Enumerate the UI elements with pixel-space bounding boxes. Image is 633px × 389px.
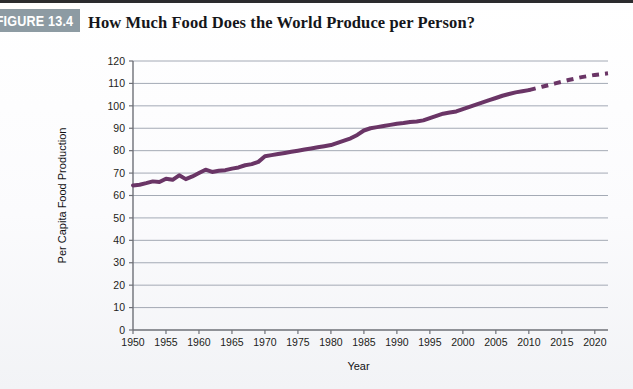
x-axis-tick-label: 2015 [550,336,574,348]
grid-lines [133,61,608,308]
figure-number-badge: FIGURE 13.4 [0,9,80,32]
x-axis-tick-labels: 1950195519601965197019751980198519901995… [121,336,606,348]
y-axis-tick-label: 40 [113,234,125,246]
y-axis-tick-label: 10 [113,301,125,313]
y-axis-tick-label: 120 [107,55,125,67]
y-axis-tick-labels: 0102030405060708090100110120 [107,55,125,336]
x-axis-tick-label: 1985 [352,336,376,348]
y-axis-tick-label: 60 [113,189,125,201]
x-axis-tick-label: 1980 [319,336,343,348]
y-axis-tick-label: 70 [113,167,125,179]
y-axis-tick-label: 20 [113,279,125,291]
figure-page: FIGURE 13.4 How Much Food Does the World… [0,0,633,389]
y-axis-tick-label: 110 [108,77,125,89]
line-chart: 0102030405060708090100110120 19501955196… [0,40,633,389]
y-axis-tick-label: 50 [113,212,125,224]
x-axis-tick-label: 2020 [583,336,607,348]
x-axis-tick-label: 2010 [517,336,541,348]
page-title: How Much Food Does the World Produce per… [88,13,475,33]
figure-number-label: FIGURE 13.4 [0,12,73,29]
y-axis-tick-label: 30 [113,256,125,268]
x-axis-tick-label: 1955 [154,336,178,348]
chart-container: 0102030405060708090100110120 19501955196… [0,40,633,389]
y-axis-tick-label: 90 [113,122,125,134]
data-line-observed [133,90,529,185]
x-axis-tick-label: 1975 [286,336,310,348]
y-axis-title: Per Capita Food Production [56,128,68,264]
y-axis-tick-label: 80 [113,144,125,156]
x-axis-tick-label: 1960 [187,336,211,348]
x-axis-tick-label: 1965 [220,336,244,348]
data-line-projection [529,73,608,90]
top-rule [0,0,633,3]
x-axis-tick-label: 2005 [484,336,508,348]
y-axis-tick-label: 100 [107,100,125,112]
x-axis-tick-label: 1990 [385,336,409,348]
x-axis-tick-label: 1950 [121,336,145,348]
x-axis-title: Year [347,360,370,372]
x-axis-tick-label: 1970 [253,336,277,348]
x-axis-tick-label: 1995 [418,336,442,348]
x-axis-tick-label: 2000 [451,336,475,348]
y-axis-tick-label: 0 [119,324,125,336]
